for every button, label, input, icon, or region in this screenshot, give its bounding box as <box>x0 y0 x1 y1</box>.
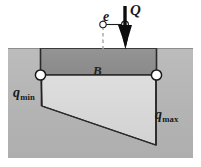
pressure-min-symbol: q <box>13 85 20 100</box>
pressure-max-symbol: q <box>155 107 162 122</box>
pressure-max-subscript: max <box>162 114 178 124</box>
pressure-max-label: qmax <box>155 108 178 122</box>
footing-width-label: B <box>93 64 102 77</box>
figure-canvas <box>0 0 201 167</box>
pressure-min-label: qmin <box>13 86 35 100</box>
footing-left-corner-node <box>35 70 45 80</box>
footing-right-corner-node <box>151 70 161 80</box>
eccentricity-label: e <box>103 10 109 24</box>
footing-pressure-figure: e Q B qmin qmax <box>0 0 201 167</box>
pressure-min-subscript: min <box>20 92 35 102</box>
load-arrow-head-tip <box>123 38 128 50</box>
applied-load-label: Q <box>130 3 141 18</box>
